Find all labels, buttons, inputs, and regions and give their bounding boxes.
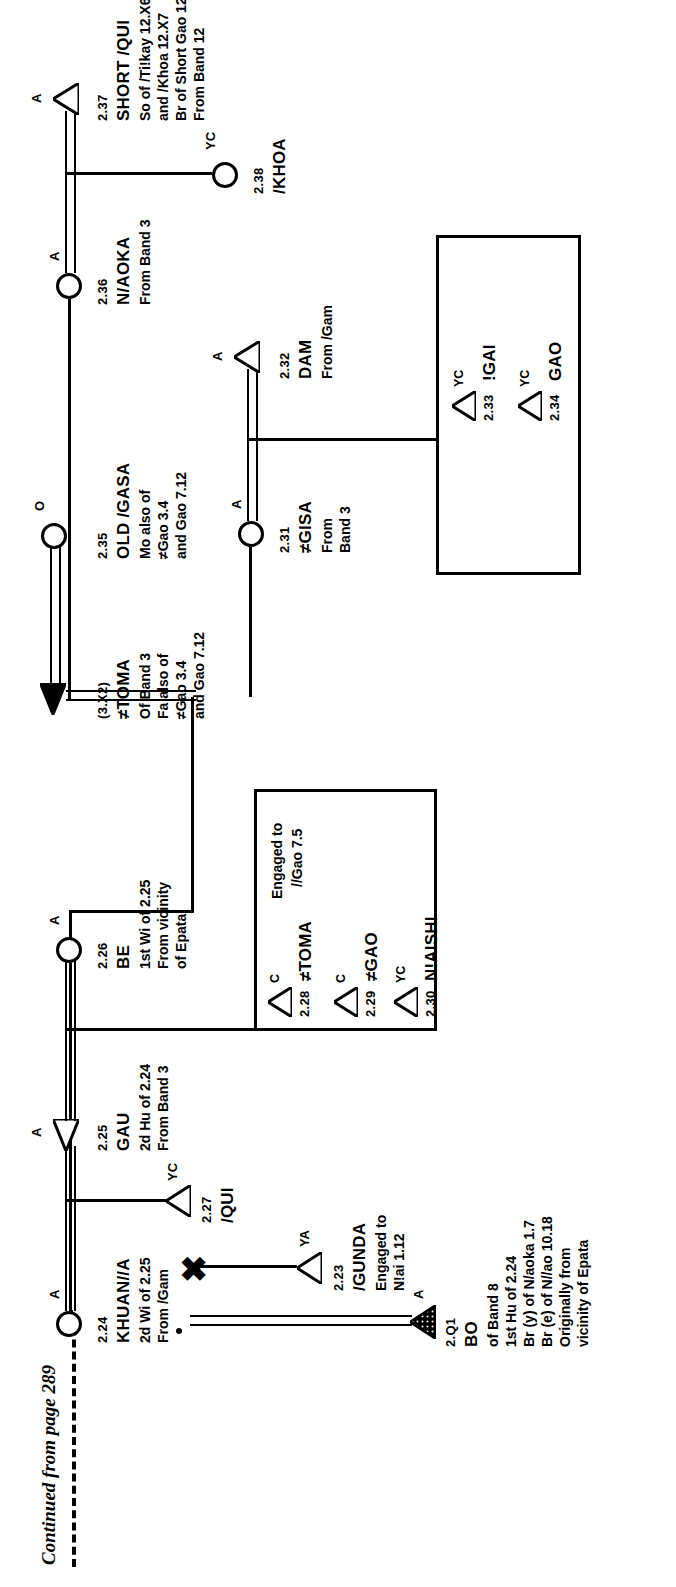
symbol-224-female-circle[interactable] xyxy=(56,1311,82,1337)
label-232-number: 2.32 xyxy=(278,352,293,379)
label-235-number: 2.35 xyxy=(96,532,111,559)
label-226-d2: of Epata xyxy=(174,914,190,969)
label-2Q1-name: BO xyxy=(462,1321,481,1347)
label-3X2-name: ≠TOMA xyxy=(114,659,133,719)
label-236-name: N/AOKA xyxy=(114,237,133,305)
trunk-upper-drop xyxy=(69,910,191,913)
label-231-d1: Band 3 xyxy=(338,506,354,553)
label-226-number: 2.26 xyxy=(96,942,111,969)
symbol-223-male-triangle[interactable] xyxy=(297,1252,322,1284)
genealogy-canvas: Continued from page 289 A 2.Q1 BO of Ban… xyxy=(0,0,676,1587)
label-238-number: 2.38 xyxy=(252,167,267,194)
label-2Q1-number: 2.Q1 xyxy=(444,1318,459,1347)
symbol-238-female-circle[interactable] xyxy=(212,162,238,188)
symbol-233-male-triangle[interactable] xyxy=(452,391,476,421)
label-2Q1-d4: Originally from xyxy=(558,1247,574,1347)
label-235-d1: ≠Gao 3.4 xyxy=(156,501,172,559)
marriage-dissolved-x-icon: ✖ xyxy=(177,1255,211,1283)
upper-descent-horizontal xyxy=(191,697,194,913)
label-2Q1-d0: of Band 8 xyxy=(486,1283,502,1347)
label-231-d0: From xyxy=(320,518,336,553)
symbol-230-male-triangle[interactable] xyxy=(394,987,418,1017)
symbol-228-male-triangle[interactable] xyxy=(268,987,292,1017)
marker-230-YC: YC xyxy=(394,966,408,983)
marker-229-C: C xyxy=(334,974,348,983)
symbol-226-female-circle[interactable] xyxy=(56,937,82,963)
label-223-name: /GUNDA xyxy=(350,1223,369,1291)
label-237-number: 2.37 xyxy=(96,94,111,121)
label-223-d1: N!ai 1.12 xyxy=(392,1233,408,1291)
label-225-d0: 2d Hu of 2.24 xyxy=(138,1064,154,1151)
label-2Q1-d5: vicinity of Epata xyxy=(576,1240,592,1347)
child-stem-233-box xyxy=(248,438,438,441)
anchor-224 xyxy=(176,1328,182,1334)
marker-232-A: A xyxy=(211,352,226,361)
marker-237-A: A xyxy=(30,94,45,103)
label-226-d1: From vicinity xyxy=(156,882,172,969)
label-3X2-number: (3.X2) xyxy=(96,682,111,719)
marker-233-YC: YC xyxy=(452,370,466,387)
marriage-line-225-226 xyxy=(65,959,76,1121)
symbol-232-male-triangle[interactable] xyxy=(234,341,260,373)
marker-236-A: A xyxy=(48,252,63,261)
symbol-225-male-triangle[interactable] xyxy=(53,1119,79,1151)
label-233-number: 2.33 xyxy=(482,394,497,421)
continuation-dashed-line xyxy=(72,1315,76,1567)
label-230-name: N!AISHI xyxy=(422,916,441,981)
label-226-d0: 1st Wi of 2.25 xyxy=(138,880,154,969)
label-229-name: ≠GAO xyxy=(362,932,381,981)
label-223-d0: Engaged to xyxy=(374,1215,390,1291)
descent-line-2Q1 xyxy=(190,1315,412,1326)
child-stem-228-box xyxy=(66,1028,256,1031)
label-224-number: 2.24 xyxy=(96,1316,111,1343)
label-3X2-d3: and Gao 7.12 xyxy=(192,632,208,719)
marker-225-A: A xyxy=(30,1128,45,1137)
label-232-d0: From /Gam xyxy=(320,305,336,379)
symbol-234-male-triangle[interactable] xyxy=(518,391,542,421)
label-2Q1-d1: 1st Hu of 2.24 xyxy=(504,1256,520,1347)
label-231-number: 2.31 xyxy=(278,526,293,553)
marriage-line-224-225 xyxy=(65,1146,76,1311)
label-3X2-d2: ≠Gao 3.4 xyxy=(174,661,190,719)
label-234-name: GAO xyxy=(546,342,565,381)
label-226-name: BE xyxy=(114,945,133,969)
marker-226-A: A xyxy=(48,916,63,925)
symbol-231-female-circle[interactable] xyxy=(238,521,264,547)
label-233-name: !GAI xyxy=(480,344,499,381)
label-235-name: OLD /GASA xyxy=(114,463,133,559)
symbol-229-male-triangle[interactable] xyxy=(334,987,358,1017)
label-3X2-d1: Fa also of xyxy=(156,654,172,719)
label-232-name: DAM xyxy=(296,340,315,379)
marker-223-YA: YA xyxy=(298,1230,313,1247)
sibling-link-236 xyxy=(68,297,71,699)
label-225-name: GAU xyxy=(114,1113,133,1151)
label-224-d1: From /Gam xyxy=(156,1269,172,1343)
label-237-d0: So of /Ti!kay 12.X6 xyxy=(138,0,154,121)
marriage-line-3X2-235 xyxy=(50,545,61,685)
sibling-link-231 xyxy=(249,545,252,697)
symbol-235-female-circle[interactable] xyxy=(41,523,67,549)
marker-234-YC: YC xyxy=(518,370,532,387)
symbol-3X2-male-triangle-filled[interactable] xyxy=(40,683,66,715)
label-235-d2: and Gao 7.12 xyxy=(174,472,190,559)
symbol-237-male-triangle[interactable] xyxy=(53,83,79,115)
label-223-number: 2.23 xyxy=(332,1264,347,1291)
marker-2Q1-A: A xyxy=(412,1290,427,1299)
label-228-name: ≠TOMA xyxy=(296,921,315,981)
label-230-number: 2.30 xyxy=(424,990,439,1017)
label-237-d1: and /Khoa 12.X7 xyxy=(156,13,172,121)
marker-228-C: C xyxy=(268,974,282,983)
marriage-line-236-237 xyxy=(65,111,76,273)
label-227-name: /QUI xyxy=(218,1187,237,1223)
marriage-line-231-232 xyxy=(247,369,258,521)
symbol-227-male-triangle[interactable] xyxy=(166,1185,191,1217)
label-227-number: 2.27 xyxy=(200,1196,215,1223)
label-237-name: SHORT /QUI xyxy=(114,20,133,121)
symbol-236-female-circle[interactable] xyxy=(56,273,82,299)
label-225-d1: From Band 3 xyxy=(156,1065,172,1151)
marker-235-O: O xyxy=(33,501,48,511)
child-link-223 xyxy=(196,1265,297,1268)
symbol-2Q1-male-triangle[interactable] xyxy=(410,1305,436,1339)
label-2Q1-d3: Br (e) of N//ao 10.18 xyxy=(540,1216,556,1347)
label-237-d2: Br of Short Gao 12.6 xyxy=(174,0,190,121)
